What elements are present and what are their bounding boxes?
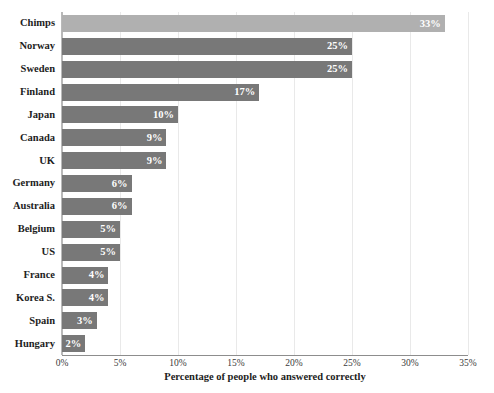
bar-row: Canada9%	[62, 126, 468, 149]
category-label: Japan	[28, 110, 55, 121]
bar-value-label: 33%	[420, 18, 441, 29]
bar-row: France4%	[62, 264, 468, 287]
category-label: UK	[39, 155, 55, 166]
x-tick-label: 15%	[227, 358, 244, 368]
bar: 6%	[62, 175, 132, 192]
bar-chart: Chimps33%Norway25%Sweden25%Finland17%Jap…	[0, 0, 494, 393]
x-tick-label: 5%	[114, 358, 127, 368]
category-label: Chimps	[20, 18, 55, 29]
bar-row: Belgium5%	[62, 218, 468, 241]
category-label: Germany	[12, 178, 55, 189]
bar-value-label: 5%	[100, 247, 116, 258]
bar: 9%	[62, 129, 166, 146]
bar-value-label: 5%	[100, 224, 116, 235]
bar-row: Sweden25%	[62, 58, 468, 81]
bar-value-label: 6%	[112, 201, 128, 212]
bar-value-label: 25%	[327, 41, 348, 52]
bar: 10%	[62, 106, 178, 123]
bar: 33%	[62, 15, 445, 32]
category-label: Korea S.	[16, 293, 55, 304]
category-label: Australia	[13, 201, 55, 212]
bar-value-label: 2%	[65, 338, 81, 349]
x-axis-title: Percentage of people who answered correc…	[62, 371, 468, 382]
x-tick-label: 35%	[459, 358, 476, 368]
bar-value-label: 17%	[234, 87, 255, 98]
category-label: Belgium	[18, 224, 55, 235]
bar: 6%	[62, 198, 132, 215]
bar-value-label: 10%	[153, 110, 174, 121]
bar-value-label: 4%	[89, 293, 105, 304]
bar: 4%	[62, 289, 108, 306]
bar-row: Hungary2%	[62, 332, 468, 355]
bar-row: UK9%	[62, 149, 468, 172]
bar-row: Australia6%	[62, 195, 468, 218]
bar: 5%	[62, 221, 120, 238]
bar: 25%	[62, 38, 352, 55]
bar: 2%	[62, 335, 85, 352]
category-label: US	[42, 247, 55, 258]
category-label: Norway	[19, 41, 55, 52]
bar-row: Chimps33%	[62, 12, 468, 35]
bar: 9%	[62, 152, 166, 169]
bar-row: Finland17%	[62, 81, 468, 104]
plot-area: Chimps33%Norway25%Sweden25%Finland17%Jap…	[62, 12, 468, 355]
bar: 5%	[62, 244, 120, 261]
x-tick-label: 0%	[56, 358, 69, 368]
bar-row: US5%	[62, 241, 468, 264]
bar-value-label: 3%	[77, 316, 93, 327]
category-label: Sweden	[21, 64, 55, 75]
bar-value-label: 9%	[147, 155, 163, 166]
bar-row: Germany6%	[62, 172, 468, 195]
category-label: Spain	[29, 315, 55, 326]
bar-value-label: 25%	[327, 64, 348, 75]
category-label: Canada	[20, 133, 55, 144]
x-tick-label: 10%	[169, 358, 186, 368]
x-tick-label: 25%	[343, 358, 360, 368]
bar-row: Spain3%	[62, 309, 468, 332]
category-label: Finland	[20, 87, 55, 98]
category-label: Hungary	[15, 338, 55, 349]
bar-value-label: 4%	[89, 270, 105, 281]
x-tick-label: 20%	[285, 358, 302, 368]
bar-row: Norway25%	[62, 35, 468, 58]
category-label: France	[24, 270, 56, 281]
bar-value-label: 9%	[147, 133, 163, 144]
bar-row: Japan10%	[62, 103, 468, 126]
x-tick-label: 30%	[401, 358, 418, 368]
bar: 17%	[62, 84, 259, 101]
gridline	[468, 12, 469, 355]
bar-row: Korea S.4%	[62, 286, 468, 309]
bar: 4%	[62, 267, 108, 284]
x-axis-line	[62, 355, 468, 356]
bar: 3%	[62, 312, 97, 329]
bar-value-label: 6%	[112, 178, 128, 189]
bar: 25%	[62, 61, 352, 78]
